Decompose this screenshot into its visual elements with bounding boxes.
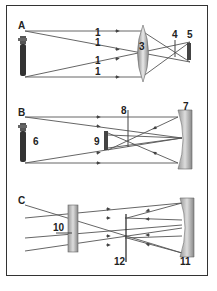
corrector-plate [68, 205, 78, 252]
object-wrench-icon [18, 36, 27, 76]
label-5: 5 [187, 29, 193, 40]
label-8: 8 [121, 105, 127, 116]
panel-b: B 6 7 8 9 [18, 101, 192, 169]
object-wrench-icon [18, 123, 27, 162]
image-wrench-icon [104, 131, 108, 150]
primary-mirror [180, 198, 194, 257]
label-7: 7 [183, 101, 189, 112]
panel-a: A 1 1 1 1 3 4 5 [18, 20, 193, 82]
label-12: 12 [114, 256, 126, 267]
panel-c-label: C [18, 195, 25, 206]
label-6: 6 [33, 136, 39, 147]
panel-c: C 10 11 12 [18, 195, 194, 267]
label-3: 3 [139, 41, 145, 52]
image-wrench-icon [187, 43, 191, 60]
label-1: 1 [95, 66, 101, 77]
label-11: 11 [180, 256, 191, 267]
label-1: 1 [95, 55, 101, 66]
label-4: 4 [172, 29, 178, 40]
label-9: 9 [94, 136, 100, 147]
label-10: 10 [53, 222, 65, 233]
panel-a-label: A [18, 20, 25, 31]
concave-mirror [178, 110, 192, 169]
optics-diagram: A 1 1 1 1 3 4 5 [0, 0, 217, 291]
label-1: 1 [95, 37, 101, 48]
panel-b-label: B [18, 107, 25, 118]
